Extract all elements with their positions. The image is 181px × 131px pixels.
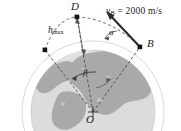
trajectory-diagram-svg	[0, 0, 181, 131]
h-subscript: max	[53, 28, 64, 35]
island-speck-6	[61, 103, 65, 106]
marker-point-b	[138, 45, 143, 50]
island-speck-3	[106, 76, 111, 79]
label-earth-center-o: O	[86, 114, 94, 125]
island-speck-1	[116, 90, 124, 95]
velocity-units: m/s	[148, 6, 162, 16]
label-angle-beta: β	[83, 68, 87, 77]
trajectory-figure: D B O hmax α β vB = 2000 m/s	[0, 0, 181, 131]
label-apogee-d: D	[71, 1, 79, 12]
label-velocity-b: vB = 2000 m/s	[106, 7, 162, 17]
marker-point-left	[43, 48, 48, 53]
marker-point-d	[75, 15, 80, 20]
label-point-b: B	[147, 38, 154, 49]
label-angle-alpha: α	[109, 28, 114, 37]
label-h-max: hmax	[48, 26, 64, 36]
island-speck-2	[128, 84, 134, 88]
hmax-measure-line	[78, 22, 83, 51]
velocity-value: 2000	[126, 6, 146, 16]
